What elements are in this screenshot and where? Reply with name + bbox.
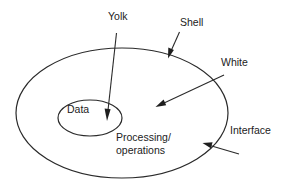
label-processing-line1: Processing/ bbox=[116, 131, 171, 143]
shell-arrowhead-icon bbox=[168, 48, 174, 59]
interface-arrow bbox=[203, 142, 240, 154]
label-yolk: Yolk bbox=[108, 10, 128, 22]
label-shell: Shell bbox=[180, 16, 203, 28]
egg-model-diagram: Yolk Shell White Interface Data Processi… bbox=[0, 0, 292, 184]
shell-arrow bbox=[168, 32, 180, 59]
white-arrowhead-icon bbox=[156, 100, 167, 107]
white-arrow bbox=[156, 75, 225, 107]
yolk-arrow bbox=[105, 33, 117, 121]
label-interface: Interface bbox=[230, 124, 271, 136]
yolk-arrowhead-icon bbox=[105, 109, 111, 122]
label-white: White bbox=[221, 56, 248, 68]
label-processing-line2: operations bbox=[116, 144, 165, 156]
interface-arrowhead-icon bbox=[203, 142, 213, 148]
label-data: Data bbox=[67, 103, 89, 115]
outer-shell-ellipse bbox=[16, 48, 228, 178]
